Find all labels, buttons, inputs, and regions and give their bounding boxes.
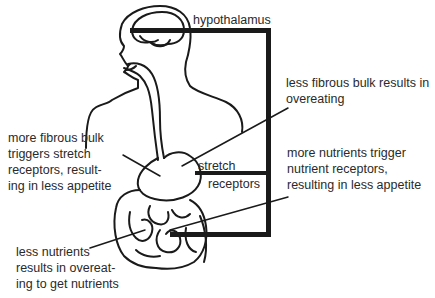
label-stretch: stretch	[198, 158, 236, 174]
hypothalamus-bar	[130, 28, 271, 33]
label-receptors: receptors	[208, 176, 260, 192]
label-more-nutrients: more nutrients trigger nutrient receptor…	[287, 145, 421, 193]
brain-fold	[140, 36, 170, 46]
label-less-fibrous-bulk: less fibrous bulk results in overeating	[286, 75, 429, 107]
stomach	[138, 152, 201, 200]
nerve-pathway	[130, 28, 271, 237]
nutrient-receptor-bar	[170, 232, 271, 237]
label-more-fibrous-bulk: more fibrous bulk triggers stretch recep…	[8, 130, 112, 194]
vertical-pathway-bar	[266, 28, 271, 237]
label-less-nutrients: less nutrients results in overeat- ing t…	[16, 244, 119, 292]
esophagus-outer	[124, 68, 158, 160]
label-hypothalamus: hypothalamus	[193, 12, 271, 28]
